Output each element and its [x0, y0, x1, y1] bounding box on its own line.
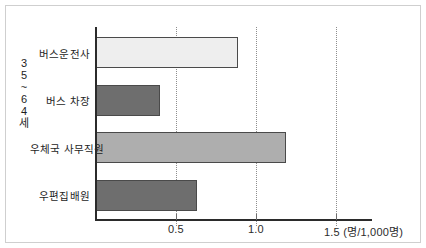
x-tick-mark-0.5 [176, 214, 177, 220]
category-label-bus-conductor: 버스 차장 [30, 93, 90, 108]
axis-unit-label: (명/1,000명) [343, 226, 403, 238]
chart-figure: 3 5 ~ 6 4 세 버스운전사 버스 차장 우체국 사무직원 우편집배원 0… [0, 0, 426, 248]
category-label-post-office-clerk: 우체국 사무직원 [30, 140, 90, 155]
bar-bus-driver [96, 37, 238, 68]
x-tick-label-1.5-with-unit: 1.5 (명/1,000명) [324, 223, 403, 239]
x-tick-label-1.5: 1.5 [324, 226, 340, 238]
group-label-char-5: 세 [16, 117, 32, 129]
group-label-char-2: ~ [16, 81, 32, 93]
bar-post-office-clerk [96, 132, 286, 163]
bar-mail-carrier [96, 180, 197, 211]
gridline-1.0 [256, 27, 257, 226]
group-label-char-1: 5 [16, 69, 32, 81]
x-tick-mark-1.5 [336, 214, 337, 220]
x-tick-label-1.0: 1.0 [248, 223, 264, 235]
category-label-mail-carrier: 우편집배원 [30, 188, 90, 203]
y-axis-line [95, 27, 97, 220]
x-tick-label-0.5: 0.5 [168, 223, 184, 235]
plot-area: 3 5 ~ 6 4 세 버스운전사 버스 차장 우체국 사무직원 우편집배원 0… [0, 0, 426, 248]
bar-bus-conductor [96, 85, 160, 116]
category-label-bus-driver: 버스운전사 [30, 45, 90, 60]
x-tick-mark-1.0 [256, 214, 257, 220]
gridline-1.5 [336, 27, 337, 226]
x-axis-line [95, 219, 372, 221]
